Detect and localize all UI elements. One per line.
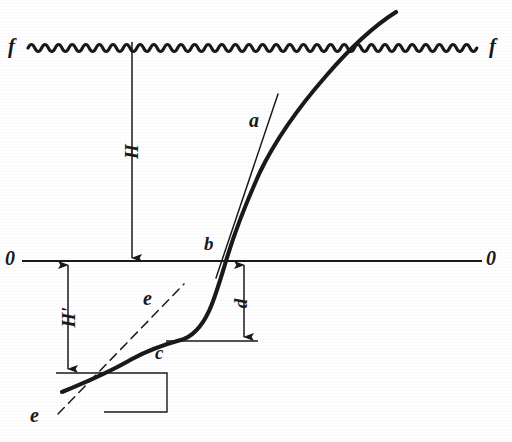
- figure-canvas: f f 0 0 a b c e e H H' d: [0, 0, 512, 442]
- surface-wave-line: [28, 45, 477, 52]
- axis-label-left: 0: [5, 248, 15, 268]
- tangent-line-a: [216, 94, 278, 278]
- dimension-label-d: d: [231, 299, 250, 309]
- tangent-label-a: a: [249, 110, 259, 130]
- point-label-b: b: [204, 234, 214, 253]
- inflection-tangent-line: [58, 284, 184, 414]
- wave-label-right: f: [489, 36, 496, 57]
- axis-label-right: 0: [486, 248, 496, 268]
- inflection-label-e-upper: e: [143, 288, 152, 308]
- dimension-label-H: H: [122, 144, 141, 159]
- point-label-c: c: [155, 343, 163, 362]
- main-settlement-curve: [62, 12, 396, 392]
- dimension-label-H-prime: H': [59, 307, 78, 327]
- inflection-label-e-lower: e: [30, 405, 39, 425]
- wave-label-left: f: [8, 36, 15, 57]
- diagram-svg: [0, 0, 512, 442]
- construction-triangle: [100, 373, 167, 412]
